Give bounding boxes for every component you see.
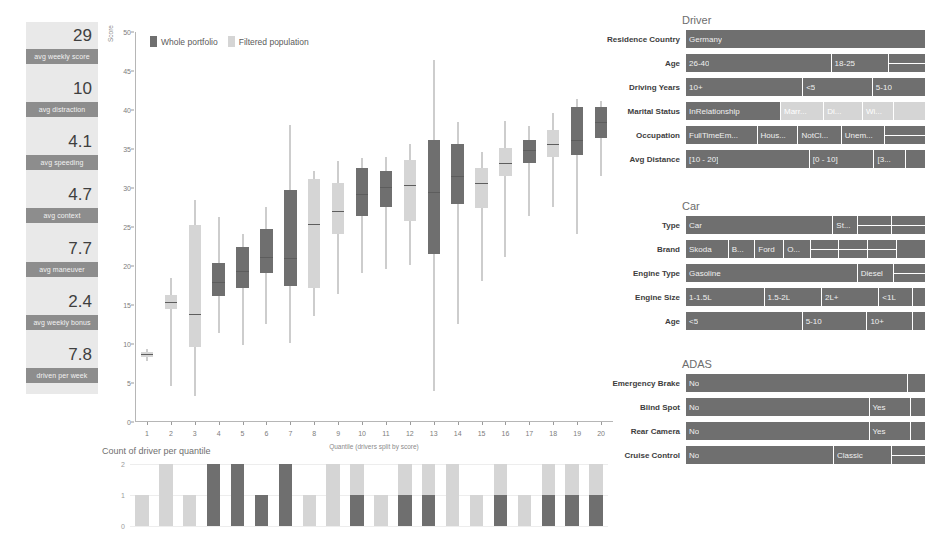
feature-bar-segment[interactable]: FullTimeEm...: [686, 126, 757, 144]
feature-bar-segment[interactable]: Skoda: [686, 240, 728, 258]
feature-bar-segment[interactable]: O...: [784, 240, 810, 258]
feature-bar-segment[interactable]: [894, 102, 925, 120]
feature-bar-segment[interactable]: [911, 422, 925, 440]
feature-bar-segment[interactable]: Ford: [755, 240, 783, 258]
feature-bar-segment[interactable]: <5: [803, 78, 872, 96]
count-chart-bar[interactable]: [518, 495, 531, 526]
feature-bar-segment[interactable]: Yes: [870, 398, 910, 416]
count-chart-bar[interactable]: [446, 464, 459, 526]
feature-bar-segment[interactable]: [10 - 20]: [686, 150, 809, 168]
count-chart-bar[interactable]: [135, 495, 148, 526]
boxplot-box[interactable]: [308, 32, 320, 422]
count-chart-bar[interactable]: [422, 464, 435, 526]
feature-bar-segment[interactable]: Hous...: [758, 126, 798, 144]
boxplot-box[interactable]: [284, 32, 296, 422]
feature-bar-segment[interactable]: Gasoline: [686, 264, 857, 282]
count-chart-bar[interactable]: [565, 464, 578, 526]
feature-bar-segment[interactable]: St...: [833, 216, 857, 234]
feature-bar-segment[interactable]: Diesel: [858, 264, 894, 282]
count-chart-bar[interactable]: [303, 495, 316, 526]
count-chart-bar[interactable]: [183, 495, 196, 526]
feature-bar-segment[interactable]: [0 - 10]: [810, 150, 874, 168]
boxplot-box[interactable]: [236, 32, 248, 422]
feature-bar-segment[interactable]: No: [686, 374, 907, 392]
feature-bar-segment[interactable]: 26-40: [686, 54, 831, 72]
boxplot-box[interactable]: [547, 32, 559, 422]
feature-bar-segment[interactable]: [839, 240, 867, 258]
feature-bar-segment[interactable]: [858, 216, 891, 234]
feature-bar-segment[interactable]: No: [686, 422, 869, 440]
feature-bar-segment[interactable]: Car: [686, 216, 832, 234]
feature-bar-segment[interactable]: [892, 446, 925, 464]
feature-bar-segment[interactable]: <5: [686, 312, 802, 330]
feature-bar-segment[interactable]: No: [686, 446, 833, 464]
count-chart-bar[interactable]: [279, 464, 292, 526]
feature-bar-segment[interactable]: 5-10: [803, 312, 867, 330]
boxplot-box[interactable]: [428, 32, 440, 422]
count-chart-bar[interactable]: [159, 464, 172, 526]
count-chart-bar-segment-filtered: [470, 495, 483, 526]
boxplot-box[interactable]: [165, 32, 177, 422]
feature-bar-segment[interactable]: [913, 312, 925, 330]
feature-bar-segment[interactable]: 10+: [867, 312, 912, 330]
feature-bar-segment[interactable]: [913, 288, 925, 306]
count-chart-bar[interactable]: [542, 464, 555, 526]
boxplot-box[interactable]: [212, 32, 224, 422]
count-chart-bar[interactable]: [255, 495, 268, 526]
feature-bar-segment[interactable]: Germany: [686, 30, 925, 48]
count-chart-bar[interactable]: [494, 464, 507, 526]
boxplot-box[interactable]: [404, 32, 416, 422]
feature-bar-segment[interactable]: [892, 216, 925, 234]
feature-bar-segment[interactable]: 10+: [686, 78, 802, 96]
boxplot-box[interactable]: [260, 32, 272, 422]
feature-bar-segment[interactable]: Yes: [870, 422, 910, 440]
feature-bar-segment[interactable]: [885, 126, 925, 144]
feature-bar-segment[interactable]: Marr...: [781, 102, 823, 120]
y-axis-tick-mark: [131, 266, 134, 267]
count-chart-bar[interactable]: [350, 464, 363, 526]
feature-bar-segment[interactable]: NotCl...: [798, 126, 840, 144]
feature-bar-segment[interactable]: 1.5-2L: [765, 288, 821, 306]
count-chart-bar[interactable]: [398, 464, 411, 526]
feature-bar-segment[interactable]: [889, 54, 925, 72]
count-chart-bar[interactable]: [231, 464, 244, 526]
feature-bar-segment[interactable]: [894, 264, 925, 282]
count-chart-bar[interactable]: [326, 464, 339, 526]
boxplot-box[interactable]: [571, 32, 583, 422]
feature-bar-segment[interactable]: [811, 240, 839, 258]
count-chart-bar[interactable]: [589, 464, 602, 526]
feature-bar-segment[interactable]: [906, 150, 925, 168]
feature-bar-segment[interactable]: 18-25: [832, 54, 889, 72]
feature-bar-segment[interactable]: 2L+: [822, 288, 878, 306]
count-chart-bar[interactable]: [374, 495, 387, 526]
feature-bar-segment[interactable]: [897, 240, 925, 258]
boxplot-box[interactable]: [499, 32, 511, 422]
feature-bar-segment[interactable]: 5-10: [873, 78, 925, 96]
count-chart-bar[interactable]: [207, 464, 220, 526]
feature-bar-segment[interactable]: InRelationship: [686, 102, 780, 120]
feature-bar-segment[interactable]: [908, 374, 925, 392]
boxplot-box[interactable]: [141, 32, 153, 422]
feature-bar: [10 - 20][0 - 10][3...: [686, 150, 925, 168]
boxplot-box[interactable]: [475, 32, 487, 422]
feature-bar-segment[interactable]: <1L: [879, 288, 912, 306]
feature-bar-segment[interactable]: Unem...: [842, 126, 884, 144]
boxplot-box[interactable]: [380, 32, 392, 422]
feature-bar-segment[interactable]: No: [686, 398, 869, 416]
feature-bar-segment[interactable]: Wi...: [863, 102, 894, 120]
feature-bar-segment[interactable]: [911, 398, 925, 416]
feature-bar-segment[interactable]: B...: [729, 240, 755, 258]
boxplot-box[interactable]: [332, 32, 344, 422]
boxplot-box[interactable]: [523, 32, 535, 422]
count-chart-bar[interactable]: [470, 495, 483, 526]
feature-bar-segment[interactable]: 1-1.5L: [686, 288, 764, 306]
feature-bar-segment[interactable]: [868, 240, 896, 258]
feature-bar-segment[interactable]: Classic: [834, 446, 891, 464]
feature-bar-segment[interactable]: [3...: [874, 150, 905, 168]
boxplot-box[interactable]: [451, 32, 463, 422]
feature-bar-segment[interactable]: Di...: [824, 102, 862, 120]
boxplot-y-axis-line: [135, 32, 136, 422]
boxplot-box[interactable]: [356, 32, 368, 422]
boxplot-box[interactable]: [189, 32, 201, 422]
feature-row: TypeCarSt...: [600, 216, 925, 234]
